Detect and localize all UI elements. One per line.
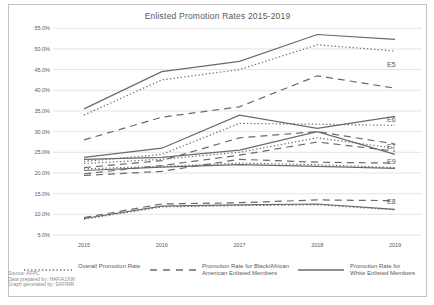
y-tick-label: 35.0% — [34, 108, 50, 114]
chart-footnotes: Source: AFPC Data prepared by: HAF/A1XW … — [8, 271, 75, 288]
legend-item-black: Promotion Rate for Black/African America… — [149, 263, 289, 277]
legend-label-white: Promotion Rate for White Enlisted Member… — [350, 263, 415, 277]
legend-item-white: Promotion Rate for White Enlisted Member… — [297, 263, 415, 277]
x-tick-label: 2019 — [389, 242, 401, 248]
series-line-E8-overall — [84, 205, 395, 220]
rank-label-E5: E5 — [387, 61, 396, 68]
rank-label-E9: E9 — [387, 158, 396, 165]
series-line-E5-overall — [84, 45, 395, 115]
rank-label-E7: E7 — [387, 143, 396, 150]
y-tick-label: 15.0% — [34, 191, 50, 197]
legend-label-black: Promotion Rate for Black/African America… — [202, 263, 289, 277]
x-tick-label: 2016 — [156, 242, 168, 248]
series-line-E8-black — [84, 200, 395, 218]
y-tick-label: 55.0% — [34, 25, 50, 31]
y-tick-label: 45.0% — [34, 67, 50, 73]
footnote-generated-by: Graph generated by: SAF/MR — [8, 282, 75, 288]
rank-label-E6: E6 — [387, 116, 396, 123]
series-line-E9-white — [84, 165, 395, 171]
y-tick-label: 40.0% — [34, 87, 50, 93]
x-tick-label: 2018 — [311, 242, 323, 248]
legend-dashed-line-icon — [149, 267, 197, 273]
series-line-E5-black — [84, 76, 395, 140]
y-tick-label: 50.0% — [34, 46, 50, 52]
series-line-E8-white — [84, 204, 395, 219]
rank-label-E8: E8 — [387, 198, 396, 205]
chart-figure: Enlisted Promotion Rates 2015-2019 5.0%1… — [8, 4, 427, 297]
legend-label-overall: Overall Promotion Rate — [78, 263, 140, 270]
y-tick-label: 25.0% — [34, 149, 50, 155]
y-tick-label: 10.0% — [34, 211, 50, 217]
y-tick-label: 30.0% — [34, 129, 50, 135]
x-tick-label: 2015 — [78, 242, 90, 248]
y-tick-label: 20.0% — [34, 170, 50, 176]
legend-solid-line-icon — [297, 267, 345, 273]
x-tick-label: 2017 — [233, 242, 245, 248]
y-tick-label: 5.0% — [37, 232, 50, 238]
series-line-E5-white — [84, 35, 395, 109]
